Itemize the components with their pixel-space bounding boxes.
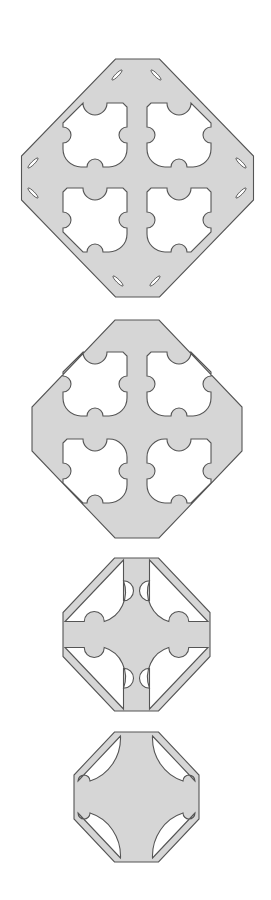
plate-2: [32, 320, 242, 538]
plate-3: [63, 558, 210, 711]
plate-4: [74, 732, 199, 862]
plates-group: [22, 59, 254, 862]
plate-1: [22, 59, 254, 297]
diagram-canvas: [0, 0, 271, 900]
